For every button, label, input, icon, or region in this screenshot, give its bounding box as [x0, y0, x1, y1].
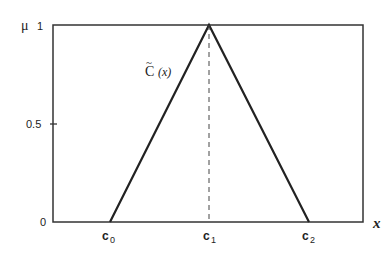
- svg-text:2: 2: [310, 235, 315, 245]
- svg-text:1: 1: [211, 235, 216, 245]
- y-tick-label-1: 1: [37, 20, 43, 32]
- x-tick-label-c1: c 1: [203, 229, 216, 245]
- plot-frame: [53, 25, 363, 222]
- svg-text:0: 0: [110, 235, 115, 245]
- x-tick-label-c2: c 2: [302, 229, 315, 245]
- x-axis-label: x: [372, 215, 381, 231]
- membership-diagram: μ 1 0.5 0 c 0 c 1 c 2 x C ~ (x): [0, 0, 387, 253]
- svg-text:c: c: [102, 229, 109, 243]
- curve-label: C ~ (x): [145, 56, 171, 79]
- x-tick-label-c0: c 0: [102, 229, 115, 245]
- svg-text:(x): (x): [158, 65, 171, 79]
- y-axis-label: μ: [21, 18, 29, 33]
- y-tick-label-0: 0: [40, 216, 46, 228]
- svg-text:c: c: [302, 229, 309, 243]
- svg-text:c: c: [203, 229, 210, 243]
- svg-text:~: ~: [146, 56, 152, 68]
- y-tick-label-half: 0.5: [26, 118, 41, 130]
